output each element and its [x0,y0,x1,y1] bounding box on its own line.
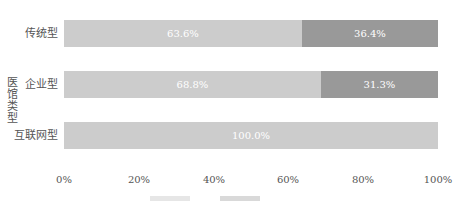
x-tick: 40% [203,174,225,185]
x-tick: 100% [424,174,453,185]
x-tick: 0% [56,174,72,185]
data-label: 68.8% [177,79,209,90]
x-tick: 80% [352,174,374,185]
bar-segment-series-2: 31.3% [321,71,438,98]
data-label: 63.6% [167,28,199,39]
category-label: 传统型 [0,20,58,47]
legend [150,196,350,203]
data-label: 36.4% [354,28,386,39]
bar-segment-series-1: 100.0% [64,122,438,149]
category-label: 企业型 [0,71,58,98]
bar-row-internet: 互联网型 100.0% [64,122,438,149]
bar-row-enterprise: 企业型 68.8% 31.3% [64,71,438,98]
plot-area: 传统型 63.6% 36.4% 企业型 68.8% 31.3% 互联网型 100… [64,0,438,165]
category-label: 互联网型 [0,122,58,149]
data-label: 31.3% [364,79,396,90]
bar-segment-series-2: 36.4% [302,20,438,47]
bar-segment-series-1: 68.8% [64,71,321,98]
legend-swatch-series-1 [150,196,190,201]
bar-segment-series-1: 63.6% [64,20,302,47]
x-tick: 20% [128,174,150,185]
legend-swatch-series-2 [220,196,260,201]
x-tick: 60% [277,174,299,185]
data-label: 100.0% [232,130,270,141]
bar-row-traditional: 传统型 63.6% 36.4% [64,20,438,47]
